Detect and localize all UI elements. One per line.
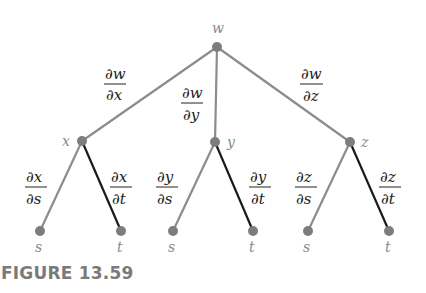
svg-text:∂x: ∂x <box>106 86 123 104</box>
label-x-t: t <box>117 239 123 255</box>
label-y-s: s <box>168 239 175 255</box>
edge-x-t <box>82 141 121 231</box>
label-z: z <box>360 134 369 150</box>
svg-text:∂w: ∂w <box>105 65 126 83</box>
node-x-t <box>116 226 126 236</box>
node-y <box>210 137 220 147</box>
node-w <box>212 42 222 52</box>
node-y-t <box>248 226 258 236</box>
label-x: x <box>62 133 70 149</box>
fraction-dx-ds: ∂x ∂s <box>25 168 47 208</box>
node-y-s <box>168 226 178 236</box>
fraction-dw-dx: ∂w ∂x <box>104 65 126 104</box>
svg-text:∂s: ∂s <box>296 190 312 208</box>
node-z-t <box>384 226 394 236</box>
svg-text:∂y: ∂y <box>250 168 267 186</box>
node-z-s <box>303 226 313 236</box>
fraction-dx-dt: ∂x ∂t <box>110 168 132 208</box>
node-z <box>345 137 355 147</box>
node-x-s <box>35 226 45 236</box>
fraction-dw-dz: ∂w ∂z <box>300 65 323 105</box>
svg-text:∂t: ∂t <box>251 190 266 208</box>
node-x <box>77 136 87 146</box>
svg-text:∂s: ∂s <box>157 190 173 208</box>
svg-text:∂z: ∂z <box>303 87 319 105</box>
fraction-dy-ds: ∂y ∂s <box>156 168 178 208</box>
label-z-t: t <box>385 239 391 255</box>
svg-text:∂y: ∂y <box>157 168 174 186</box>
label-y: y <box>226 134 236 150</box>
svg-text:∂t: ∂t <box>112 190 127 208</box>
svg-text:∂t: ∂t <box>381 190 396 208</box>
fraction-dz-ds: ∂z ∂s <box>295 168 317 208</box>
edge-w-z <box>217 47 350 142</box>
edge-y-t <box>215 142 253 231</box>
svg-text:∂x: ∂x <box>111 168 128 186</box>
svg-text:∂x: ∂x <box>26 168 43 186</box>
fraction-dy-dt: ∂y ∂t <box>249 168 271 208</box>
svg-text:∂w: ∂w <box>182 84 203 102</box>
svg-text:∂y: ∂y <box>183 106 200 124</box>
svg-text:∂w: ∂w <box>301 65 322 83</box>
svg-text:∂z: ∂z <box>296 168 312 186</box>
label-z-s: s <box>303 239 310 255</box>
svg-text:∂s: ∂s <box>26 190 42 208</box>
edge-x-s <box>40 141 82 231</box>
fraction-dz-dt: ∂z ∂t <box>379 168 401 208</box>
figure-caption: FIGURE 13.59 <box>1 263 134 283</box>
chain-rule-tree: w x y z s t s t s t ∂w ∂x ∂w ∂y ∂w ∂z ∂x… <box>0 0 426 293</box>
label-w: w <box>212 20 224 36</box>
svg-text:∂z: ∂z <box>380 168 396 186</box>
label-x-s: s <box>35 239 42 255</box>
label-y-t: t <box>249 239 255 255</box>
edge-y-s <box>173 142 215 231</box>
edge-w-y <box>215 47 217 142</box>
fraction-dw-dy: ∂w ∂y <box>181 84 203 124</box>
